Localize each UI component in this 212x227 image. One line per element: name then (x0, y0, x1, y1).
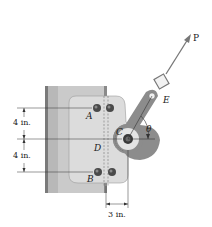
label-a: A (85, 111, 93, 121)
label-theta: θ (146, 124, 152, 134)
label-d: D (93, 143, 101, 153)
dim-horizontal: 3 in. (108, 210, 126, 219)
label-c: C (116, 127, 123, 137)
statics-diagram: P E A B C D θ 4 in. 4 in. 3 in. (0, 0, 212, 227)
dim-upper: 4 in. (13, 118, 31, 127)
label-p: P (193, 33, 199, 43)
force-block (154, 74, 169, 89)
dim-lower: 4 in. (13, 151, 31, 160)
force-arrow (166, 39, 188, 74)
label-e: E (162, 95, 170, 105)
label-b: B (86, 174, 94, 184)
